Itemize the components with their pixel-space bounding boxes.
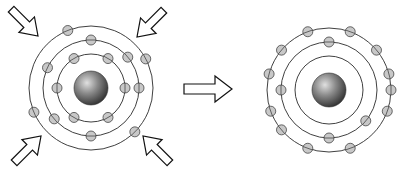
- electron: [277, 125, 287, 135]
- electron: [324, 133, 334, 143]
- right-atom-rearranged: [264, 27, 396, 154]
- nucleus: [74, 71, 108, 105]
- electron: [42, 63, 52, 73]
- electron: [103, 54, 113, 64]
- electron: [141, 54, 151, 64]
- electron: [120, 83, 130, 93]
- electron: [324, 37, 334, 47]
- electron: [49, 114, 59, 124]
- electron: [345, 143, 355, 153]
- electron: [130, 127, 140, 137]
- arrow-top-left-icon: [3, 1, 45, 43]
- electron: [86, 131, 96, 141]
- electron: [303, 143, 313, 153]
- electron: [264, 69, 274, 79]
- electron: [86, 35, 96, 45]
- diagram-canvas: [0, 0, 401, 174]
- electron: [276, 85, 286, 95]
- arrow-bottom-right-icon: [135, 128, 177, 170]
- atom-compression-diagram: [0, 0, 401, 174]
- electron: [63, 26, 73, 36]
- electron: [69, 54, 79, 64]
- electron: [386, 85, 396, 95]
- electron: [103, 112, 113, 122]
- nucleus: [312, 73, 346, 107]
- electron: [303, 27, 313, 37]
- electron: [29, 107, 39, 117]
- electron: [371, 45, 381, 55]
- electron: [361, 116, 371, 126]
- electron: [134, 83, 144, 93]
- transition-arrow-icon: [184, 76, 232, 102]
- electron: [345, 27, 355, 37]
- electron: [384, 69, 394, 79]
- electron: [382, 106, 392, 116]
- arrow-bottom-left-icon: [6, 128, 48, 170]
- arrow-top-right-icon: [129, 2, 171, 44]
- electron: [69, 112, 79, 122]
- electron: [266, 106, 276, 116]
- electron: [52, 83, 62, 93]
- electron: [277, 45, 287, 55]
- electron: [123, 52, 133, 62]
- left-atom-compressed: [29, 26, 153, 150]
